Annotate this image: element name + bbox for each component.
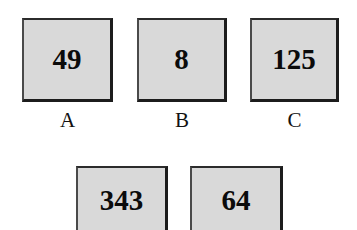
figure-canvas: 49 A 8 B 125 C 343 64 <box>0 0 357 230</box>
number-box-64-value: 64 <box>222 186 251 215</box>
number-box-343-value: 343 <box>100 186 144 215</box>
box-label-b: B <box>137 110 227 131</box>
box-label-c: C <box>250 110 339 131</box>
number-box-c: 125 <box>250 18 339 102</box>
number-box-64: 64 <box>190 166 283 230</box>
number-box-a: 49 <box>22 18 113 102</box>
number-box-c-value: 125 <box>272 45 316 74</box>
number-box-b-value: 8 <box>174 45 189 74</box>
number-box-b: 8 <box>137 18 227 102</box>
number-box-343: 343 <box>76 166 168 230</box>
number-box-a-value: 49 <box>53 45 82 74</box>
box-label-a: A <box>22 110 113 131</box>
